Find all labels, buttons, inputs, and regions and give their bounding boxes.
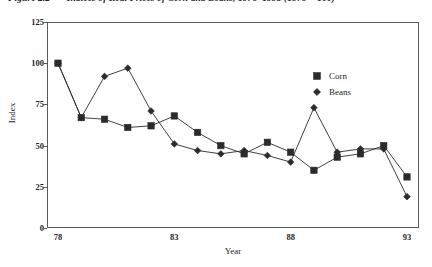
y-axis-title: Index [7,63,17,163]
filled-square-icon [310,69,324,83]
filled-diamond-icon [310,85,324,99]
figure-caption-text: Indices of Real Prices of Corn and Beans… [67,0,335,3]
chart-legend: CornBeans [310,68,396,100]
price-index-line-chart: 0255075100125 78838893 Index Year CornBe… [0,12,432,267]
legend-label: Corn [329,71,347,81]
figure-caption: Figure 2.2 Indices of Real Prices of Cor… [8,0,428,5]
x-tick-label: 93 [392,232,422,242]
x-tick-label: 88 [276,232,306,242]
legend-label: Beans [329,87,351,97]
x-axis-title: Year [47,246,419,256]
x-tick-label: 78 [43,232,73,242]
x-axis-ticks: 78838893 [0,12,432,262]
legend-item-beans[interactable]: Beans [310,84,396,100]
legend-item-corn[interactable]: Corn [310,68,396,84]
figure-caption-label: Figure 2.2 [8,0,50,3]
x-tick-label: 83 [159,232,189,242]
